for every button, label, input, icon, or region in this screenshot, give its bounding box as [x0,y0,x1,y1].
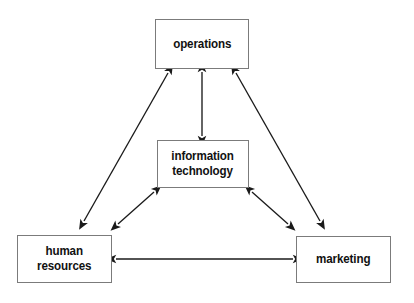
node-human-resources[interactable]: human resources [17,235,112,283]
node-marketing[interactable]: marketing [296,236,391,283]
edge-operations-human-resources [84,73,168,221]
node-operations[interactable]: operations [155,19,249,69]
node-marketing-label: marketing [316,252,370,267]
node-human-resources-label: human resources [37,244,91,274]
edge-information-technology-human-resources [118,192,154,224]
diagram-canvas: operations information technology human … [0,0,414,303]
node-operations-label: operations [173,37,231,52]
node-information-technology-label: information technology [172,149,234,179]
node-information-technology[interactable]: information technology [157,140,249,188]
edge-information-technology-marketing [252,192,288,224]
